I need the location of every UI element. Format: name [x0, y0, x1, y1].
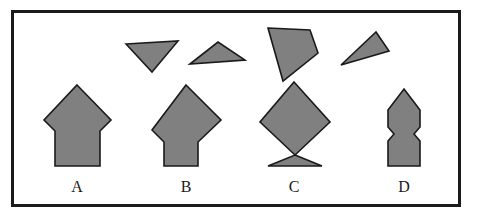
shape-puzzle-figure: A B C D	[0, 0, 482, 224]
answer-label-c: C	[289, 178, 300, 195]
figure-canvas: A B C D	[0, 0, 482, 224]
answer-label-b: B	[181, 178, 192, 195]
answer-label-a: A	[71, 178, 83, 195]
answer-label-d: D	[398, 178, 410, 195]
